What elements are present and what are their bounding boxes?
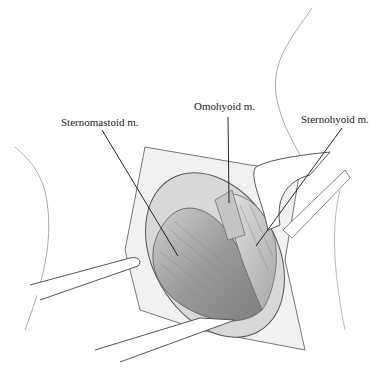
label-sternohyoid: Sternohyoid m.: [301, 113, 369, 125]
label-sternomastoid: Sternomastoid m.: [61, 116, 139, 128]
anatomy-illustration: Sternomastoid m. Omohyoid m. Sternohyoid…: [0, 0, 387, 376]
illustration-drawing: [0, 0, 387, 376]
label-omohyoid: Omohyoid m.: [194, 100, 255, 112]
